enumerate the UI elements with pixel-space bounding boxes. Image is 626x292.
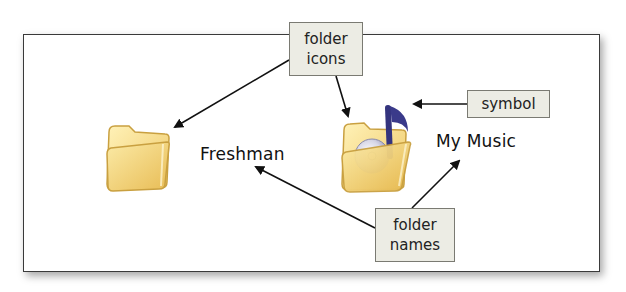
callout-folder-icons: folder icons (289, 22, 363, 76)
callout-symbol-label: symbol (481, 94, 535, 114)
callout-folder-names-line2: names (390, 235, 440, 255)
music-folder-icon[interactable] (338, 96, 416, 194)
callout-folder-names: folder names (375, 208, 455, 262)
callout-folder-names-line1: folder (393, 215, 437, 235)
folder-name-my-music[interactable]: My Music (436, 131, 516, 151)
callout-folder-icons-line1: folder (304, 29, 348, 49)
callout-symbol: symbol (467, 90, 550, 118)
folder-icon[interactable] (103, 122, 173, 194)
callout-folder-icons-line2: icons (307, 49, 346, 69)
folder-name-freshman[interactable]: Freshman (200, 144, 285, 164)
